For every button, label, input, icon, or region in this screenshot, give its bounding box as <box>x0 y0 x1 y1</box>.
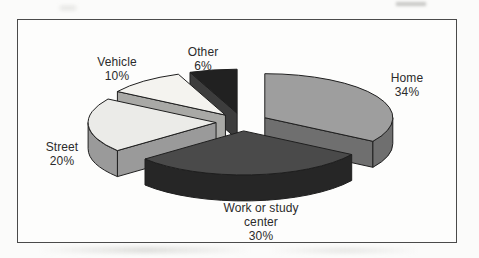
slice-label-work-or-study-center: Work or study center30% <box>216 201 306 243</box>
slice-label-name: Work or study center <box>216 201 306 229</box>
slice-label-vehicle: Vehicle10% <box>77 55 157 83</box>
slice-label-other: Other6% <box>163 45 243 73</box>
slice-label-percent: 10% <box>77 69 157 83</box>
scanned-chart-page: Home34%Work or study center30%Street20%V… <box>0 0 479 258</box>
slice-label-street: Street20% <box>22 140 102 168</box>
slice-label-name: Home <box>367 71 447 85</box>
slice-label-name: Street <box>22 140 102 154</box>
slice-label-percent: 34% <box>367 85 447 99</box>
slice-label-name: Vehicle <box>77 55 157 69</box>
slice-labels-layer: Home34%Work or study center30%Street20%V… <box>0 0 479 258</box>
slice-label-home: Home34% <box>367 71 447 99</box>
slice-label-percent: 20% <box>22 154 102 168</box>
slice-label-name: Other <box>163 45 243 59</box>
slice-label-percent: 6% <box>163 59 243 73</box>
slice-label-percent: 30% <box>216 229 306 243</box>
